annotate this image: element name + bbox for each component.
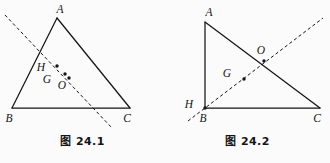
solid-edge-AC xyxy=(57,18,130,108)
vertex-label-b: B xyxy=(199,112,206,124)
figure-sheet: HGOABC 图 24.1 HGOABC 图 24.2 xyxy=(0,0,330,163)
figure-24-2-caption: 图 24.2 xyxy=(165,132,330,148)
caption-text: 图 24.2 xyxy=(225,135,269,148)
point-dot-o xyxy=(67,76,70,79)
point-label-h: H xyxy=(184,98,194,110)
vertex-label-a: A xyxy=(55,3,64,15)
figure-panel-2: HGOABC 图 24.2 xyxy=(165,0,330,163)
figure-panel-1: HGOABC 图 24.1 xyxy=(0,0,165,163)
point-label-g: G xyxy=(223,67,232,79)
figure-24-2-drawing: HGOABC xyxy=(165,0,330,135)
figure-24-1-caption: 图 24.1 xyxy=(0,132,165,148)
point-label-o: O xyxy=(257,44,266,56)
vertex-label-b: B xyxy=(5,112,12,124)
caption-text: 图 24.1 xyxy=(60,135,104,148)
point-dot-h xyxy=(203,106,206,109)
point-dot-g xyxy=(63,72,66,75)
point-label-g: G xyxy=(43,73,52,85)
vertex-label-a: A xyxy=(204,6,213,18)
dashed-euler-line xyxy=(188,18,323,121)
figure-24-1-drawing: HGOABC xyxy=(0,0,165,135)
point-label-o: O xyxy=(58,79,67,91)
vertex-label-c: C xyxy=(313,112,321,124)
point-dot-h xyxy=(55,64,58,67)
point-dot-o xyxy=(262,59,265,62)
point-label-h: H xyxy=(36,61,46,73)
vertex-label-c: C xyxy=(123,112,131,124)
point-dot-g xyxy=(242,77,245,80)
dashed-euler-line xyxy=(5,15,112,128)
